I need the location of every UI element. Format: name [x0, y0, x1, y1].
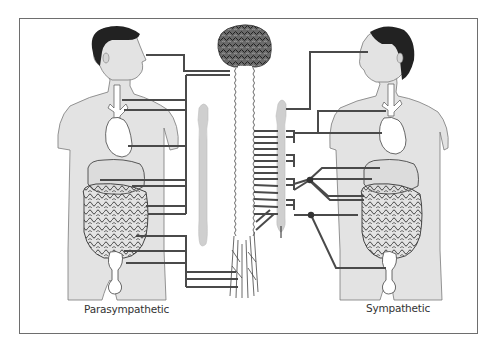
parasympathetic-column: [198, 104, 208, 246]
intestines: [361, 184, 422, 258]
spinal-cord: [230, 66, 258, 298]
left-body: [58, 26, 179, 300]
parasympathetic-label: Parasympathetic: [84, 303, 169, 315]
brain: [218, 25, 272, 67]
celiac-ganglion: [307, 177, 313, 183]
intestines: [83, 184, 148, 258]
diagram-canvas: [0, 0, 497, 351]
mesenteric-ganglion: [308, 212, 314, 218]
right-body: [330, 26, 449, 300]
autonomic-nervous-system-diagram: Parasympathetic Sympathetic: [0, 0, 497, 351]
sympathetic-label: Sympathetic: [366, 302, 430, 314]
